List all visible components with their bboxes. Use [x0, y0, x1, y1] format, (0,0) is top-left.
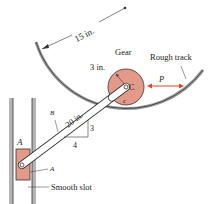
track-center-point — [124, 7, 127, 10]
force-p-label: P — [158, 74, 164, 84]
force-p-arrow — [147, 84, 184, 89]
point-a-label: A — [16, 137, 23, 147]
smooth-slot-label: Smooth slot — [51, 182, 92, 192]
track-radius-dimension — [42, 7, 126, 49]
slope-run-label: 4 — [73, 141, 77, 150]
point-b-label: B — [50, 109, 55, 117]
pin-a — [20, 163, 24, 167]
point-c-label: C — [129, 83, 134, 92]
pin-c — [124, 85, 128, 89]
rough-track-label: Rough track — [150, 52, 193, 62]
slope-rise-label: 3 — [90, 124, 94, 133]
rough-track-leader — [181, 66, 186, 79]
gear-radius-label: 3 in. — [90, 62, 105, 72]
point-b-leader — [55, 120, 58, 132]
mechanism-diagram: 15 in. Gear 3 in. C c P Rough — [0, 0, 212, 204]
slider-label: A — [49, 165, 55, 173]
track-radius-label: 15 in. — [73, 26, 96, 44]
gear-label: Gear — [115, 47, 132, 57]
